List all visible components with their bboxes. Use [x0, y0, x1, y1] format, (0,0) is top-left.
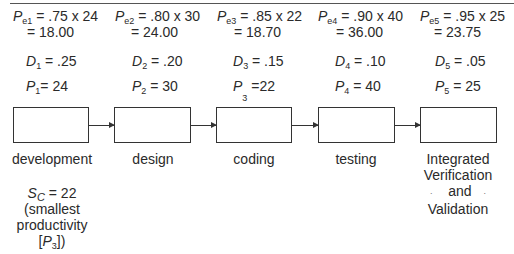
stage-box-coding — [216, 107, 292, 143]
stage-label-design: design — [104, 151, 202, 167]
ivv-line-1: Integrated — [406, 151, 510, 167]
summary-line-2: (smallest — [10, 201, 94, 217]
d4-value: D4 = .10 — [335, 53, 386, 69]
pe4-formula: Pe4 = .90 x 40 — [318, 8, 403, 24]
p1-value: P1= 24 — [26, 78, 68, 94]
stage-box-design — [114, 107, 191, 143]
pe1-result: = 18.00 — [27, 24, 74, 40]
summary-line-4: [P3]) — [10, 233, 94, 249]
stage-label-development: development — [0, 151, 104, 167]
stage-box-development — [13, 107, 89, 143]
ivv-line-4: Validation — [406, 201, 510, 217]
pe2-result: = 24.00 — [131, 24, 178, 40]
p5-value: P5 = 25 — [435, 78, 481, 94]
pe3-formula: Pe3 = .85 x 22 — [217, 8, 302, 24]
ivv-line-3: · and · — [406, 183, 510, 201]
arrow-icon — [292, 125, 318, 126]
d3-value: D3 = .15 — [233, 53, 284, 69]
d2-value: D2 = .20 — [132, 53, 183, 69]
d1-value: D1 = .25 — [26, 53, 77, 69]
summary-sc: SC = 22 — [10, 185, 94, 201]
stage-label-coding: coding — [204, 151, 304, 167]
pe4-result: = 36.00 — [336, 24, 383, 40]
stage-label-testing: testing — [306, 151, 406, 167]
stage-box-ivv — [420, 107, 497, 143]
arrow-icon — [395, 125, 420, 126]
d5-value: D5 = .05 — [435, 53, 486, 69]
summary-block: SC = 22 (smallest productivity [P3]) — [10, 185, 94, 249]
p4-value: P4 = 40 — [335, 78, 381, 94]
pe1-formula: Pe1 = .75 x 24 — [13, 8, 98, 24]
pe2-formula: Pe2 = .80 x 30 — [115, 8, 200, 24]
pe5-result: = 23.75 — [434, 24, 481, 40]
pe3-result: = 18.70 — [234, 24, 281, 40]
arrow-icon — [191, 125, 216, 126]
stage-label-ivv: Integrated Verification · and · Validati… — [406, 151, 510, 217]
p2-value: P2 = 30 — [132, 78, 178, 94]
top-rule — [10, 3, 514, 4]
ivv-line-2: Verification — [406, 167, 510, 183]
stage-box-testing — [318, 107, 395, 143]
summary-line-3: productivity — [10, 217, 94, 233]
pe5-formula: Pe5 = .95 x 25 — [420, 8, 505, 24]
p3-value: P3 =22 — [233, 78, 275, 98]
arrow-icon — [89, 125, 114, 126]
